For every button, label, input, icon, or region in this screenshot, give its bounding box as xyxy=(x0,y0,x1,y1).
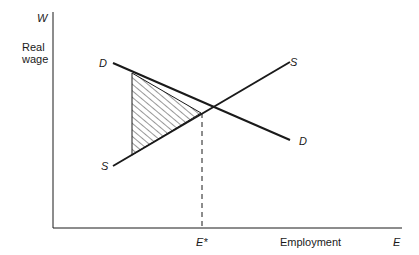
demand-label-end: D xyxy=(299,135,307,147)
supply-label-end: S xyxy=(290,56,297,68)
supply-demand-diagram xyxy=(0,0,419,255)
x-axis-symbol: E xyxy=(393,236,400,248)
y-axis-symbol: W xyxy=(37,12,47,24)
x-axis-label: Employment xyxy=(280,236,341,248)
equilibrium-employment-label: E* xyxy=(196,236,208,248)
supply-label-start: S xyxy=(101,160,108,172)
demand-label-start: D xyxy=(99,57,107,69)
y-axis-label-line1: Real xyxy=(22,41,45,53)
y-axis-label-line2: wage xyxy=(22,53,48,65)
